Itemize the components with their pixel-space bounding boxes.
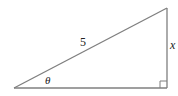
right-angle-marker xyxy=(160,81,167,88)
hypotenuse-side xyxy=(14,8,167,88)
angle-label: θ xyxy=(45,74,51,86)
right-triangle-diagram: 5 x θ xyxy=(0,0,178,96)
triangle xyxy=(14,8,167,88)
hypotenuse-label: 5 xyxy=(80,35,86,49)
opposite-side-label: x xyxy=(169,38,176,52)
